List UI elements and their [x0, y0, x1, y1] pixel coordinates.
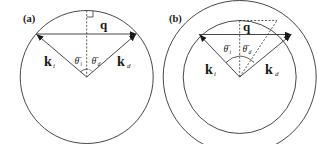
panel-a: (a) q k i k d θ̄ i θ̄ d: [20, 11, 153, 144]
panel-label: (b): [169, 13, 182, 25]
theta-d-subscript: d: [98, 61, 101, 67]
q-label: q: [243, 19, 251, 34]
ki-label: k: [205, 62, 213, 77]
theta-i-subscript: i: [230, 49, 232, 55]
kd-label: k: [265, 62, 273, 77]
ki-label: k: [44, 54, 52, 69]
angle-arc-d: [87, 69, 93, 72]
angle-arc-i: [226, 56, 240, 63]
theta-i-subscript: i: [81, 61, 83, 67]
scattering-diagram: (a) q k i k d θ̄ i θ̄ d (b) q k i k d θ̄: [0, 0, 317, 144]
theta-d-subscript: d: [249, 49, 252, 55]
right-angle-marker: [87, 11, 93, 17]
panel-label: (a): [23, 13, 36, 25]
kd-subscript: d: [275, 70, 279, 78]
ki-subscript: i: [53, 62, 55, 70]
q-label: q: [100, 17, 108, 32]
kd-label: k: [117, 54, 125, 69]
kd-subscript: d: [127, 62, 131, 70]
angle-arc-i: [81, 69, 87, 72]
panel-b: (b) q k i k d θ̄ i θ̄ d: [163, 1, 316, 145]
angle-arc-d: [240, 56, 254, 63]
ki-subscript: i: [214, 70, 216, 78]
